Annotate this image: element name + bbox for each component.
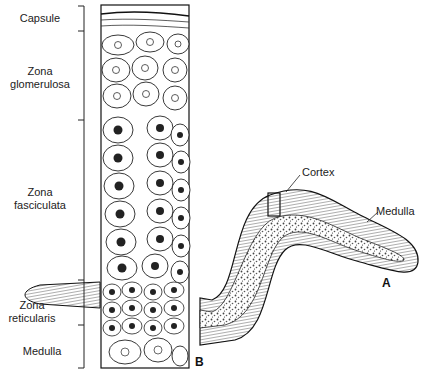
label-zona-glomerulosa: Zona glomerulosa (2, 65, 78, 91)
label-cortex: Cortex (302, 166, 334, 179)
label-line: Zona (2, 65, 78, 78)
label-line: Zona (0, 299, 64, 312)
label-zona-fasciculata: Zona fasciculata (2, 186, 78, 212)
label-line: fasciculata (2, 199, 78, 212)
label-medulla-right: Medulla (376, 205, 415, 218)
label-capsule: Capsule (10, 12, 70, 25)
label-line: glomerulosa (2, 78, 78, 91)
label-line: reticularis (0, 312, 64, 325)
histology-column (101, 5, 190, 368)
label-medulla-left: Medulla (12, 345, 72, 358)
label-zona-reticularis: Zona reticularis (0, 299, 64, 325)
zone-bracket (78, 6, 84, 368)
panel-label-a: A (382, 276, 391, 290)
panel-label-b: B (195, 355, 204, 369)
label-line: Zona (2, 186, 78, 199)
